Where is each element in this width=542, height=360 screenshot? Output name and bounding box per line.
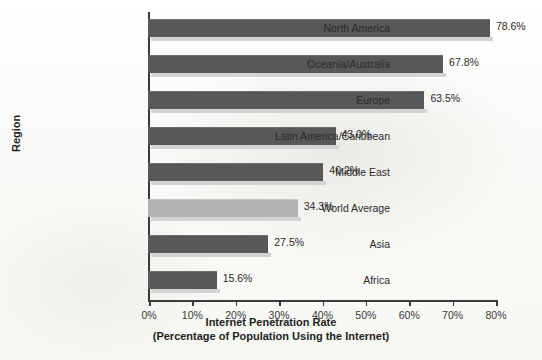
bar-value-label: 15.6% [223,272,253,284]
category-label: Latin America/Caribbean [275,130,390,142]
bar-value-label: 63.5% [430,92,460,104]
category-label: World Average [322,202,391,214]
x-axis-tick [192,300,194,306]
bar-value-label: 78.6% [496,20,526,32]
x-axis-tick [236,300,238,306]
chart-page: Region 0%10%20%30%40%50%60%70%80%78.6%67… [0,0,542,360]
x-axis-title: Internet Penetration Rate [0,316,542,330]
bar-shadow [151,73,446,77]
bar-value-label: 67.8% [449,56,479,68]
x-axis-tick [453,300,455,306]
bar-row: 15.6% [148,271,497,293]
y-axis-title: Region [10,115,22,152]
bar-row: 40.2% [148,163,497,185]
category-label: Asia [370,238,390,250]
bar[interactable] [148,199,298,217]
x-axis-tick [149,300,151,306]
x-axis-tick [496,300,498,306]
category-label: Europe [356,94,390,106]
bar-shadow [151,289,220,293]
x-axis-tick [323,300,325,306]
bar-shadow [151,145,339,149]
bar[interactable] [148,271,217,289]
x-axis-tick [366,300,368,306]
bar[interactable] [148,19,490,37]
category-label: Africa [363,274,390,286]
bar-shadow [151,217,301,221]
bar-value-label: 27.5% [274,236,304,248]
category-label: North America [323,22,390,34]
bar-row: 63.5% [148,91,497,113]
category-label: Oceania/Australia [307,58,390,70]
bar-shadow [151,37,493,41]
x-axis-tick [279,300,281,306]
x-axis-subtitle: (Percentage of Population Using the Inte… [0,330,542,344]
bar-row: 27.5% [148,235,497,257]
x-axis-tick [409,300,411,306]
bar[interactable] [148,55,443,73]
bar-shadow [151,181,326,185]
plot-area: 0%10%20%30%40%50%60%70%80%78.6%67.8%63.5… [148,12,497,300]
bar[interactable] [148,163,323,181]
bar-shadow [151,109,427,113]
bar[interactable] [148,235,268,253]
category-label: Middle East [335,166,390,178]
bar-shadow [151,253,271,257]
